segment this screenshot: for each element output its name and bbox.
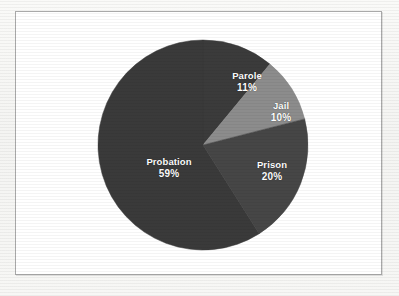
pie-label-jail: Jail 10% (254, 101, 308, 123)
pie-label-parole-name: Parole (212, 71, 282, 82)
page-root: Parole 11% Jail 10% Prison 20% Probation… (0, 0, 399, 296)
pie-label-jail-name: Jail (254, 101, 308, 112)
pie-label-parole-value: 11% (212, 82, 282, 93)
pie-label-probation-value: 59% (126, 168, 212, 179)
chart-frame: Parole 11% Jail 10% Prison 20% Probation… (15, 11, 382, 275)
pie-label-prison: Prison 20% (239, 160, 305, 182)
pie-chart (16, 12, 381, 274)
plot-area: Parole 11% Jail 10% Prison 20% Probation… (16, 12, 381, 274)
pie-label-jail-value: 10% (254, 112, 308, 123)
pie-label-parole: Parole 11% (212, 71, 282, 93)
pie-label-prison-value: 20% (239, 171, 305, 182)
pie-label-probation: Probation 59% (126, 157, 212, 179)
pie-label-probation-name: Probation (126, 157, 212, 168)
pie-label-prison-name: Prison (239, 160, 305, 171)
